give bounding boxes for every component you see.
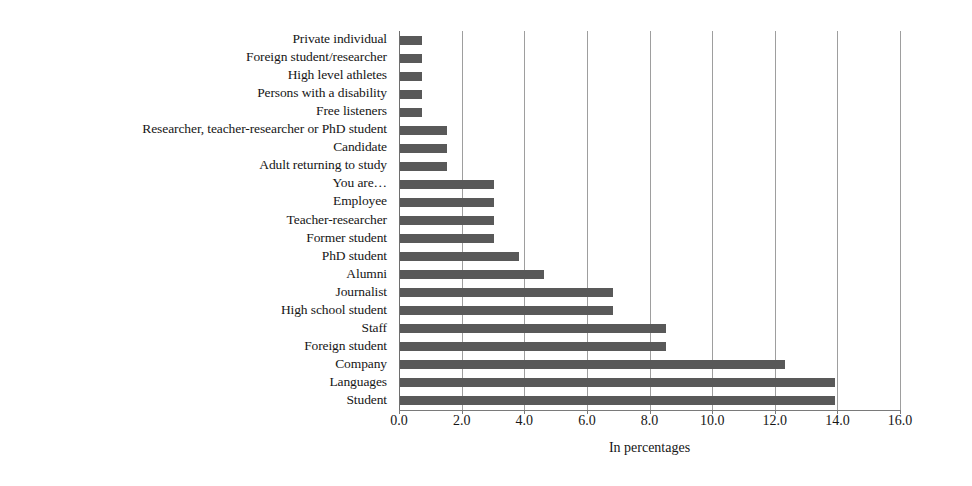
category-label: Alumni [0,267,392,281]
plot-area [399,31,900,410]
bar [400,162,447,171]
bar [400,360,785,369]
category-label: Student [0,393,392,407]
bar [400,36,422,45]
bar [400,90,422,99]
x-tick-label: 2.0 [440,414,484,428]
category-label: Candidate [0,140,392,154]
bar [400,396,835,405]
x-axis-title: In percentages [399,441,900,455]
bar [400,378,835,387]
bar [400,252,519,261]
category-label: Free listeners [0,104,392,118]
category-axis-labels: Private individualForeign student/resear… [0,30,392,410]
bar [400,180,494,189]
gridline-8 [650,31,651,410]
category-label: You are… [0,176,392,190]
x-tick-label: 6.0 [565,414,609,428]
category-label: Languages [0,375,392,389]
bar [400,72,422,81]
bar [400,198,494,207]
gridline-16 [900,31,901,410]
x-tick-label: 12.0 [753,414,797,428]
category-label: Staff [0,321,392,335]
x-tick-label: 10.0 [690,414,734,428]
category-label: Persons with a disability [0,86,392,100]
bar [400,216,494,225]
category-label: Adult returning to study [0,158,392,172]
x-tick-label: 0.0 [377,414,421,428]
bar [400,324,666,333]
x-tick-label: 16.0 [878,414,922,428]
category-label: Private individual [0,32,392,46]
bar [400,306,613,315]
gridline-14 [837,31,838,410]
category-label: Journalist [0,285,392,299]
bar [400,288,613,297]
gridline-10 [712,31,713,410]
gridline-12 [775,31,776,410]
bar [400,144,447,153]
category-label: Former student [0,231,392,245]
x-tick-label: 4.0 [502,414,546,428]
bar [400,54,422,63]
bar [400,270,544,279]
category-label: Foreign student [0,339,392,353]
category-label: Employee [0,194,392,208]
category-label: PhD student [0,249,392,263]
bar [400,126,447,135]
bar [400,234,494,243]
category-label: High school student [0,303,392,317]
category-label: High level athletes [0,68,392,82]
bar [400,108,422,117]
gridline-4 [524,31,525,410]
bar [400,342,666,351]
category-label: Foreign student/researcher [0,50,392,64]
x-tick-label: 14.0 [815,414,859,428]
x-tick-label: 8.0 [628,414,672,428]
horizontal-bar-chart: Private individualForeign student/resear… [0,0,972,486]
gridline-6 [587,31,588,410]
category-label: Company [0,357,392,371]
category-label: Teacher-researcher [0,213,392,227]
category-label: Researcher, teacher-researcher or PhD st… [0,122,392,136]
